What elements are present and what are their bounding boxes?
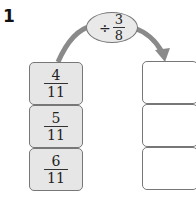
answer-box[interactable] xyxy=(142,147,196,190)
input-fraction: 6 11 xyxy=(44,154,68,185)
input-cell: 4 11 xyxy=(29,62,83,105)
input-cell: 5 11 xyxy=(29,105,83,148)
numerator: 5 xyxy=(50,111,63,125)
input-cell: 6 11 xyxy=(29,148,83,191)
numerator: 4 xyxy=(50,68,63,82)
denominator: 11 xyxy=(45,171,67,185)
operation-fraction: 3 8 xyxy=(113,13,125,42)
input-fraction: 5 11 xyxy=(44,111,68,142)
divide-operator: ÷ xyxy=(99,20,111,36)
denominator: 11 xyxy=(45,128,67,142)
operation-numerator: 3 xyxy=(113,13,125,26)
operation-denominator: 8 xyxy=(113,29,125,42)
input-column: 4 11 5 11 6 11 xyxy=(29,62,83,191)
answer-box[interactable] xyxy=(142,61,196,104)
denominator: 11 xyxy=(45,85,67,99)
output-column xyxy=(142,61,196,190)
operation-oval: ÷ 3 8 xyxy=(86,12,138,43)
numerator: 6 xyxy=(50,154,63,168)
answer-box[interactable] xyxy=(142,104,196,147)
input-fraction: 4 11 xyxy=(44,68,68,99)
